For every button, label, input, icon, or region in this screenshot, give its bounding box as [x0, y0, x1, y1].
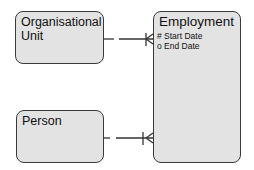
crows-foot-icon [146, 133, 153, 138]
relationship-person-employment[interactable] [104, 132, 153, 145]
relationship-connectors [0, 0, 254, 170]
crows-foot-icon [146, 39, 153, 44]
crows-foot-icon [146, 34, 153, 39]
relationship-org-unit-employment[interactable] [104, 33, 153, 46]
crows-foot-icon [146, 138, 153, 143]
